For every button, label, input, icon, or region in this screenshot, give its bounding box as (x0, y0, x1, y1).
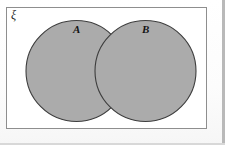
page-edge-right (222, 0, 225, 145)
set-circle-b (95, 21, 196, 122)
page-edge-bottom (0, 143, 225, 145)
set-label-a: A (73, 24, 80, 35)
venn-diagram-screenshot: ξ A B (0, 0, 225, 145)
universal-set-symbol: ξ (11, 9, 16, 21)
set-label-b: B (142, 24, 149, 35)
venn-circles-group (0, 0, 225, 145)
